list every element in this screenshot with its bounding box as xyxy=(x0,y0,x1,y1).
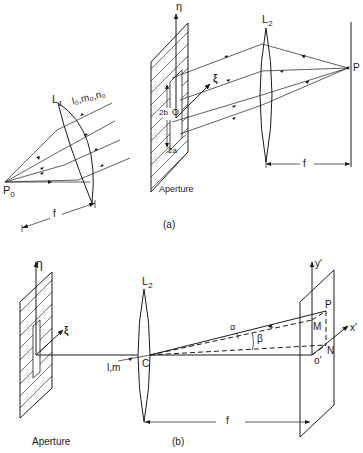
label-eta-a: η xyxy=(176,1,182,12)
label-l2-b: L2 xyxy=(142,276,153,290)
caption-b: (b) xyxy=(172,437,184,447)
label-l1-sub: 1 xyxy=(58,99,62,108)
label-c: C xyxy=(142,359,149,369)
label-xi-a: ξ xyxy=(213,74,217,84)
label-beta: β xyxy=(257,334,263,344)
label-f-b: f xyxy=(226,416,229,426)
lens-l1 xyxy=(58,103,93,203)
part-b-diagram xyxy=(10,258,348,442)
dimension-f-l2 xyxy=(266,160,350,168)
label-l2-a-sub: 2 xyxy=(268,19,272,28)
label-o-prime: o′ xyxy=(314,356,321,366)
part-a-diagram xyxy=(5,14,351,232)
beta-arc xyxy=(252,333,254,350)
label-p0-sub: 0 xyxy=(10,190,14,199)
label-point-m: M xyxy=(313,322,321,332)
label-lm: l,m xyxy=(107,363,120,373)
label-f-a-left: f xyxy=(53,209,56,219)
label-eta-b: η xyxy=(36,258,43,270)
dimension-f-l1 xyxy=(22,200,95,232)
rays-l1 xyxy=(5,103,130,184)
optics-figure: P0 L1 l₀,m₀,n₀ f η ξ O 2b 2a Aperture L2… xyxy=(0,0,363,453)
label-origin-o: O xyxy=(172,108,179,117)
label-p-a: P xyxy=(353,63,360,73)
label-y-prime: y′ xyxy=(315,259,322,269)
label-alpha: α xyxy=(230,323,235,332)
label-l2-a: L2 xyxy=(262,14,273,28)
label-aperture-a: Aperture xyxy=(159,185,194,194)
caption-a: (a) xyxy=(163,220,175,230)
label-p0: P0 xyxy=(3,185,15,199)
label-l2-b-sub: 2 xyxy=(148,281,152,290)
label-f-a-right: f xyxy=(303,159,306,169)
label-2a: 2a xyxy=(168,147,177,155)
label-point-n: N xyxy=(327,346,334,356)
label-2b: 2b xyxy=(159,109,168,117)
label-point-p: P xyxy=(325,300,332,310)
label-aperture-b: Aperture xyxy=(32,437,70,447)
label-x-prime: x′ xyxy=(350,323,357,333)
label-xi-b: ξ xyxy=(64,326,68,336)
label-l1: L1 xyxy=(52,94,63,108)
image-point-p-a xyxy=(347,67,350,70)
